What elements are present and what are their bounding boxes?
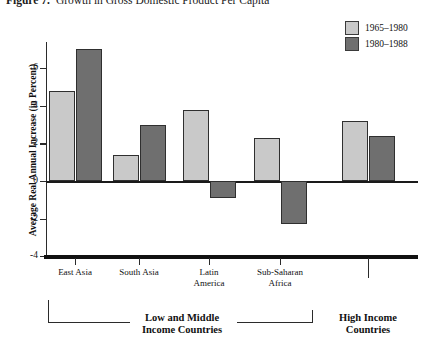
bar-latin-america-1965-1980 <box>183 110 209 181</box>
x-label-line: Sub-Saharan <box>257 267 303 278</box>
bar-sub-saharan-africa-1980-1988 <box>281 181 307 224</box>
y-tick-label--4: -4 <box>20 251 38 261</box>
group-label-low-middle: Low and Middle Income Countries <box>142 312 222 336</box>
x-axis-baseline <box>44 255 418 258</box>
y-tick-label--2: -2 <box>20 214 38 224</box>
x-label-line: South Asia <box>119 267 158 278</box>
bar-east-asia-1965-1980 <box>49 91 75 181</box>
y-tick-2 <box>40 143 46 144</box>
group-bracket-right-segment <box>237 322 312 323</box>
group-label-low-middle-line2: Income Countries <box>142 324 222 336</box>
chart-plot-area: Average Real Annual Increase (in Percent… <box>0 0 424 349</box>
y-axis-line <box>46 42 47 257</box>
group-bracket-right-stem <box>312 310 313 323</box>
bar-east-asia-1980-1988 <box>76 49 102 181</box>
y-tick-label-4: 4 <box>20 101 38 111</box>
bar-sub-saharan-africa-1965-1980 <box>254 138 280 181</box>
x-tick-0 <box>75 258 76 265</box>
group-bracket-left-stem <box>48 300 49 322</box>
bar-latin-america-1980-1988 <box>210 181 236 198</box>
x-axis-label-east-asia: East Asia <box>58 267 92 278</box>
y-tick-label-2: 2 <box>20 138 38 148</box>
x-axis-label-south-asia: South Asia <box>119 267 158 278</box>
bar-south-asia-1980-1988 <box>140 125 166 181</box>
group-label-low-middle-line1: Low and Middle <box>142 312 222 324</box>
y-tick-4 <box>40 106 46 107</box>
y-tick-label-6: 6 <box>20 63 38 73</box>
group-bracket-left-segment <box>48 322 130 323</box>
group-label-high-income: High Income Countries <box>339 312 397 336</box>
x-tick-1 <box>139 258 140 265</box>
x-axis-label-sub-saharan-africa: Sub-SaharanAfrica <box>257 267 303 288</box>
x-tick-2 <box>209 258 210 265</box>
x-label-line: America <box>194 278 225 289</box>
group-label-high-income-line2: Countries <box>339 324 397 336</box>
x-label-line: Africa <box>257 278 303 289</box>
y-tick-6 <box>40 68 46 69</box>
y-tick--2 <box>40 219 46 220</box>
high-income-stem <box>368 260 369 278</box>
bar-high-income-countries-1965-1980 <box>342 121 368 181</box>
bar-high-income-countries-1980-1988 <box>369 136 395 181</box>
group-label-high-income-line1: High Income <box>339 312 397 324</box>
x-axis-label-latin-america: LatinAmerica <box>194 267 225 288</box>
bar-south-asia-1965-1980 <box>113 155 139 181</box>
y-tick-label-0: 0 <box>20 176 38 186</box>
x-label-line: East Asia <box>58 267 92 278</box>
x-tick-3 <box>280 258 281 265</box>
x-label-line: Latin <box>194 267 225 278</box>
